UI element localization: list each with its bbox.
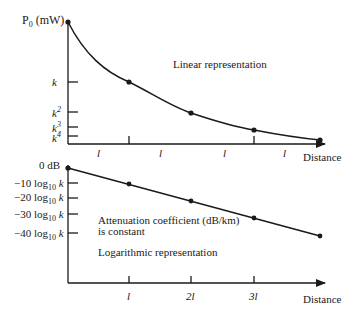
top-y-tick-k: k xyxy=(52,76,57,88)
top-y-axis-title: P0 (mW) xyxy=(22,14,64,26)
tick-k: k xyxy=(59,191,64,203)
top-y-tick-k2: k2 xyxy=(52,107,61,119)
bottom-y-tick-minus20: −20 log10 k xyxy=(14,191,64,203)
tick-k: k xyxy=(59,227,64,239)
top-axes xyxy=(68,22,325,144)
top-y-tick-k4: k4 xyxy=(52,132,61,144)
linear-data-points xyxy=(65,19,322,142)
bottom-y-tick-minus30: −30 log10 k xyxy=(14,208,64,220)
tick-prefix: −30 xyxy=(14,208,34,220)
top-x-segment-label-2: l xyxy=(159,147,162,159)
bottom-x-tick-l: l xyxy=(127,290,130,302)
y-axis-symbol: P xyxy=(22,13,29,27)
linear-decay-curve xyxy=(68,22,320,140)
tick-k: k xyxy=(59,208,64,220)
tick-text: 0 dB xyxy=(39,159,60,171)
tick-k: k xyxy=(59,177,64,189)
top-x-segment-label-1: l xyxy=(97,147,100,159)
tick-exponent: 2 xyxy=(57,105,61,114)
tick-base: k xyxy=(52,76,57,88)
tick-prefix: −10 xyxy=(14,177,34,189)
bottom-x-tick-2l: 2l xyxy=(186,290,195,302)
tick-exponent: 3 xyxy=(57,120,61,129)
tick-log-base: 10 xyxy=(48,197,56,206)
top-x-axis-title: Distance xyxy=(303,151,341,163)
tick-prefix: −20 xyxy=(14,191,34,203)
tick-log-base: 10 xyxy=(48,233,56,242)
top-x-segment-label-3: l xyxy=(223,147,226,159)
tick-prefix: −40 xyxy=(14,227,34,239)
bottom-x-tick-3l: 3l xyxy=(249,290,258,302)
tick-log: log xyxy=(34,208,48,220)
logarithmic-representation-label: Logarithmic representation xyxy=(98,246,217,258)
bottom-y-tick-minus10: −10 log10 k xyxy=(14,177,64,189)
bottom-y-tick-minus40: −40 log10 k xyxy=(14,227,64,239)
tick-log: log xyxy=(34,177,48,189)
top-x-segment-label-4: l xyxy=(283,147,286,159)
linear-representation-label: Linear representation xyxy=(173,58,267,70)
tick-log: log xyxy=(34,191,48,203)
bottom-x-axis-title: Distance xyxy=(303,293,341,305)
tick-log-base: 10 xyxy=(48,214,56,223)
attenuation-annotation-line2: is constant xyxy=(98,225,145,237)
y-axis-unit: (mW) xyxy=(36,13,65,27)
tick-exponent: 4 xyxy=(57,130,61,139)
bottom-y-tick-0db: 0 dB xyxy=(39,159,60,171)
tick-log: log xyxy=(34,227,48,239)
y-axis-subscript: 0 xyxy=(29,20,33,29)
